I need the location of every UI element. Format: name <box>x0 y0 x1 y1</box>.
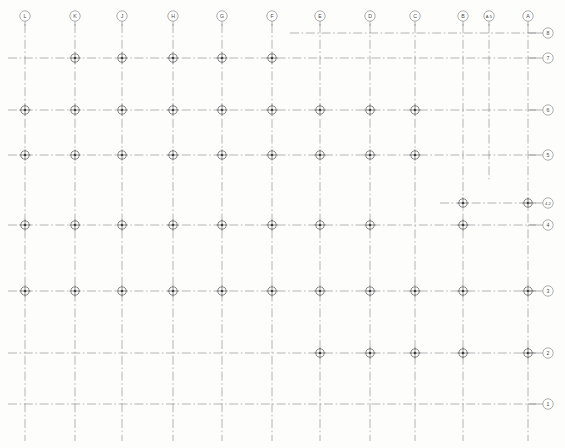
column-marker <box>314 104 325 115</box>
column-marker <box>409 104 420 115</box>
column-grid-bubble-g[interactable]: G <box>217 11 227 26</box>
column-marker <box>216 285 227 296</box>
column-grid-bubble-a-5[interactable]: A.5 <box>484 11 494 26</box>
grid-bubble-label: 5 <box>547 152 550 158</box>
row-grid-bubble-1[interactable]: 1 <box>528 399 553 409</box>
grid-bubble-label: D <box>368 13 372 19</box>
column-gridlines-layer <box>25 24 528 441</box>
grid-bubble-label: 3 <box>547 288 550 294</box>
column-marker <box>167 219 178 230</box>
grid-bubble-label: F <box>270 13 273 19</box>
column-marker <box>216 149 227 160</box>
column-marker <box>457 285 468 296</box>
column-grid-bubble-l[interactable]: L <box>20 11 30 26</box>
grid-bubble-label: H <box>171 13 175 19</box>
column-marker <box>266 52 277 63</box>
grid-bubble-label: A <box>526 13 530 19</box>
row-grid-bubble-3[interactable]: 3 <box>528 286 553 296</box>
column-marker <box>409 347 420 358</box>
column-marker <box>314 149 325 160</box>
column-marker <box>364 219 375 230</box>
column-marker <box>116 285 127 296</box>
column-grid-bubble-a[interactable]: A <box>523 11 533 26</box>
grid-bubble-label: A.5 <box>486 14 493 19</box>
column-marker <box>314 285 325 296</box>
column-marker <box>409 285 420 296</box>
column-marker <box>19 219 30 230</box>
column-marker <box>314 347 325 358</box>
column-marker <box>266 285 277 296</box>
column-marker <box>266 219 277 230</box>
column-marker <box>19 285 30 296</box>
column-marker <box>167 149 178 160</box>
column-marker <box>116 149 127 160</box>
row-grid-bubble-8[interactable]: 8 <box>528 28 553 38</box>
row-grid-bubble-7[interactable]: 7 <box>528 53 553 63</box>
column-marker <box>457 347 468 358</box>
grid-bubble-label: G <box>220 13 224 19</box>
column-marker <box>364 149 375 160</box>
column-marker <box>69 104 80 115</box>
column-grid-bubble-j[interactable]: J <box>117 11 127 26</box>
column-grid-bubble-c[interactable]: C <box>410 11 420 26</box>
column-marker <box>19 104 30 115</box>
column-marker <box>266 149 277 160</box>
column-marker <box>216 219 227 230</box>
grid-bubble-label: C <box>413 13 417 19</box>
column-marker <box>69 285 80 296</box>
column-grid-bubble-f[interactable]: F <box>267 11 277 26</box>
grid-bubble-label: 4 <box>547 222 550 228</box>
column-grid-bubble-e[interactable]: E <box>315 11 325 26</box>
column-marker <box>116 104 127 115</box>
column-marker <box>457 219 468 230</box>
grid-bubble-label: 2 <box>547 350 550 356</box>
column-marker <box>167 104 178 115</box>
column-grid-bubble-d[interactable]: D <box>365 11 375 26</box>
grid-bubble-label: J <box>121 13 124 19</box>
column-marker <box>19 149 30 160</box>
column-marker <box>69 52 80 63</box>
column-marker <box>409 149 420 160</box>
grid-bubble-label: K <box>73 13 77 19</box>
row-grid-bubble-4-2[interactable]: 4.2 <box>528 198 553 208</box>
column-marker <box>167 52 178 63</box>
column-marker <box>364 285 375 296</box>
column-marker <box>364 104 375 115</box>
column-marker <box>69 219 80 230</box>
grid-bubble-label: 4.2 <box>545 201 551 206</box>
column-marker <box>266 104 277 115</box>
drawing-sheet: LKJHGFEDCBA.5A87654.24321 <box>0 0 565 448</box>
grid-bubble-label: 8 <box>547 30 550 36</box>
column-grid-bubble-h[interactable]: H <box>168 11 178 26</box>
column-marker <box>116 219 127 230</box>
row-grid-bubble-2[interactable]: 2 <box>528 348 553 358</box>
grid-bubble-label: E <box>318 13 322 19</box>
row-grid-bubble-5[interactable]: 5 <box>528 150 553 160</box>
column-grid-bubble-b[interactable]: B <box>458 11 468 26</box>
column-marker <box>167 285 178 296</box>
grid-bubble-label: B <box>461 13 465 19</box>
column-markers-layer <box>19 52 533 358</box>
column-grid-bubble-k[interactable]: K <box>70 11 80 26</box>
column-marker <box>216 52 227 63</box>
column-marker <box>69 149 80 160</box>
column-marker <box>216 104 227 115</box>
column-marker <box>457 197 468 208</box>
grid-bubble-label: 7 <box>547 55 550 61</box>
column-marker <box>314 219 325 230</box>
column-marker <box>116 52 127 63</box>
row-grid-bubble-6[interactable]: 6 <box>528 105 553 115</box>
column-marker <box>364 347 375 358</box>
grid-bubble-label: L <box>24 13 27 19</box>
column-grid-plan: LKJHGFEDCBA.5A87654.24321 <box>0 0 565 448</box>
row-grid-bubble-4[interactable]: 4 <box>528 220 553 230</box>
grid-bubbles-layer: LKJHGFEDCBA.5A87654.24321 <box>20 11 553 409</box>
grid-bubble-label: 6 <box>547 107 550 113</box>
grid-bubble-label: 1 <box>547 401 550 407</box>
